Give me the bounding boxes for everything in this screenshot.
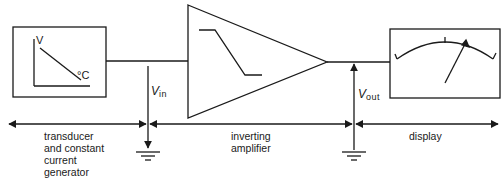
transducer-label: transducer and constant current generato…	[44, 130, 104, 178]
step-transfer-curve-icon	[199, 30, 262, 75]
amplifier-label: inverting amplifier	[231, 130, 271, 154]
vin-label: Vin	[151, 84, 167, 99]
graph-y-axis-label: V	[36, 34, 43, 46]
display-label: display	[409, 130, 442, 142]
vout-label: Vout	[358, 87, 380, 102]
analog-meter-icon	[395, 37, 496, 83]
ground-icon	[136, 152, 160, 160]
inverting-amplifier-symbol	[188, 5, 327, 118]
graph-x-axis-label: °C	[77, 69, 89, 81]
ground-icon	[342, 152, 366, 160]
